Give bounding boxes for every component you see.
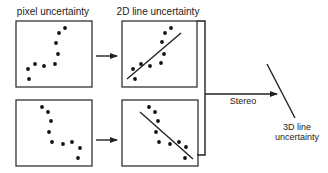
data-point-bottom-left-2 [46, 110, 50, 114]
data-point-bottom-right-4 [154, 130, 158, 134]
data-point-bottom-right-8 [184, 145, 188, 149]
stereo-uncertainty-diagram: pixel uncertainty 2D line uncertainty St… [0, 0, 328, 173]
data-point-bottom-right-3 [156, 119, 160, 123]
line-3d-label-1: 3D line [283, 122, 311, 132]
data-point-top-right-4 [162, 52, 166, 56]
data-point-top-right-3 [160, 40, 164, 44]
panel-top-right-frame [122, 21, 197, 87]
fit-line-top-right [127, 33, 181, 79]
line-3d [267, 64, 295, 118]
data-point-top-left-4 [56, 52, 60, 56]
data-point-top-right-1 [169, 26, 173, 30]
data-point-top-left-9 [27, 77, 31, 81]
data-point-top-right-2 [163, 31, 167, 35]
panel-bottom-right-frame [122, 100, 198, 166]
data-point-top-right-8 [131, 67, 135, 71]
data-point-top-right-9 [133, 77, 137, 81]
data-point-bottom-right-7 [177, 140, 181, 144]
data-point-bottom-left-3 [49, 119, 53, 123]
fit-line-bottom-right [140, 112, 193, 159]
data-point-bottom-left-6 [61, 142, 65, 146]
fit-lines-layer [127, 33, 193, 159]
data-point-bottom-left-1 [40, 105, 44, 109]
line-2d-uncertainty-label: 2D line uncertainty [117, 6, 200, 17]
data-point-bottom-right-6 [168, 142, 172, 146]
data-point-bottom-right-1 [147, 105, 151, 109]
panel-bottom-left-frame [16, 100, 92, 166]
data-point-top-left-1 [63, 26, 67, 30]
data-point-bottom-left-5 [50, 140, 54, 144]
data-point-top-left-8 [26, 67, 30, 71]
data-point-bottom-left-9 [76, 156, 80, 160]
data-point-top-left-5 [53, 62, 57, 66]
data-point-top-left-3 [54, 41, 58, 45]
line-3d-label-2: uncertainty [275, 132, 320, 142]
panel-top-left-frame [16, 21, 92, 87]
data-point-top-left-2 [57, 31, 61, 35]
data-point-bottom-right-9 [183, 156, 187, 160]
data-point-top-left-6 [42, 64, 46, 68]
stereo-label: Stereo [230, 96, 257, 106]
data-point-bottom-left-4 [47, 130, 51, 134]
data-point-top-right-6 [148, 64, 152, 68]
data-point-bottom-right-2 [153, 110, 157, 114]
data-point-bottom-right-5 [157, 140, 161, 144]
pixel-uncertainty-label: pixel uncertainty [17, 6, 89, 17]
data-point-top-left-7 [33, 62, 37, 66]
data-point-bottom-left-7 [70, 140, 74, 144]
data-point-bottom-left-8 [78, 146, 82, 150]
data-point-top-right-5 [159, 61, 163, 65]
